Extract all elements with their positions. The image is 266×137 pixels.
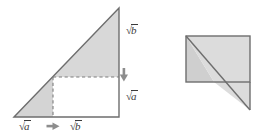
label-sqrt-a-bottom-text: a — [24, 120, 31, 132]
inscribed-white-rectangle — [53, 77, 119, 117]
arrow-right-icon — [47, 123, 60, 130]
label-sqrt-a-right: √a — [126, 90, 138, 102]
label-sqrt-b-right: √b — [126, 24, 138, 36]
label-sqrt-b-bottom-text: b — [75, 120, 82, 132]
figure-root: √b √a √a √b — [0, 0, 266, 137]
left-figure-group — [14, 8, 128, 130]
label-sqrt-b-right-text: b — [131, 24, 138, 36]
label-sqrt-b-bottom: √b — [70, 120, 82, 132]
label-sqrt-a-right-text: a — [131, 90, 138, 102]
right-figure-group — [186, 36, 250, 110]
geometry-diagram — [0, 0, 266, 137]
arrow-down-icon — [120, 68, 128, 82]
right-figure-triangle-tail — [214, 82, 250, 110]
label-sqrt-a-bottom: √a — [19, 120, 31, 132]
